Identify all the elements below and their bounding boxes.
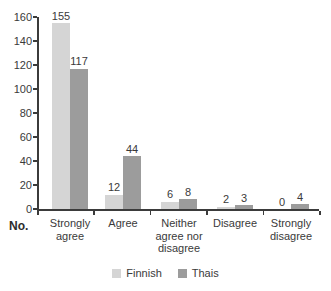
y-tick-mark	[33, 64, 37, 66]
x-tick-mark	[37, 211, 39, 215]
bar-value-label: 155	[46, 10, 76, 23]
y-tick-mark	[33, 136, 37, 138]
x-tick-mark	[93, 211, 95, 215]
y-tick-mark	[33, 208, 37, 210]
bar-finnish	[161, 202, 179, 209]
category-label: Agree	[91, 217, 155, 230]
bar-finnish	[105, 195, 123, 209]
bar-value-label: 44	[117, 143, 147, 156]
bar-value-label: 8	[173, 186, 203, 199]
y-axis-title: No.	[9, 219, 28, 233]
y-tick-label: 60	[0, 131, 32, 144]
legend-swatch-icon	[112, 269, 121, 278]
y-tick-label: 120	[0, 59, 32, 72]
y-tick-mark	[33, 16, 37, 18]
bar-thais	[291, 204, 309, 209]
category-label: Strongly disagree	[259, 217, 323, 242]
bar-thais	[179, 199, 197, 209]
x-tick-mark	[150, 211, 152, 215]
x-tick-mark	[206, 211, 208, 215]
bar-value-label: 3	[229, 192, 259, 205]
bar-finnish	[217, 207, 235, 209]
bar-value-label: 4	[285, 191, 315, 204]
legend-label: Finnish	[126, 267, 161, 279]
bar-thais	[123, 156, 141, 209]
y-tick-mark	[33, 112, 37, 114]
bar-thais	[70, 69, 88, 209]
y-tick-label: 0	[0, 203, 32, 216]
legend-entry-thais: Thais	[178, 267, 219, 279]
bar-chart-figure: 020406080100120140160 1551171244682304 S…	[0, 0, 331, 291]
bar-finnish	[52, 23, 70, 209]
y-tick-label: 20	[0, 179, 32, 192]
legend-label: Thais	[192, 267, 219, 279]
x-tick-mark	[263, 211, 265, 215]
y-axis-line	[37, 17, 39, 211]
y-tick-mark	[33, 160, 37, 162]
x-tick-mark	[319, 211, 321, 215]
legend-entry-finnish: Finnish	[112, 267, 161, 279]
category-label: Neither agree nor disagree	[147, 217, 211, 255]
bar-value-label: 117	[64, 55, 94, 68]
legend: FinnishThais	[0, 267, 331, 279]
y-tick-label: 40	[0, 155, 32, 168]
y-tick-mark	[33, 184, 37, 186]
y-tick-label: 100	[0, 83, 32, 96]
y-tick-label: 160	[0, 11, 32, 24]
x-axis-line	[37, 209, 319, 211]
y-tick-mark	[33, 40, 37, 42]
legend-swatch-icon	[178, 269, 187, 278]
y-tick-label: 140	[0, 35, 32, 48]
y-tick-label: 80	[0, 107, 32, 120]
bar-thais	[235, 205, 253, 209]
category-label: Disagree	[203, 217, 267, 230]
y-tick-mark	[33, 88, 37, 90]
